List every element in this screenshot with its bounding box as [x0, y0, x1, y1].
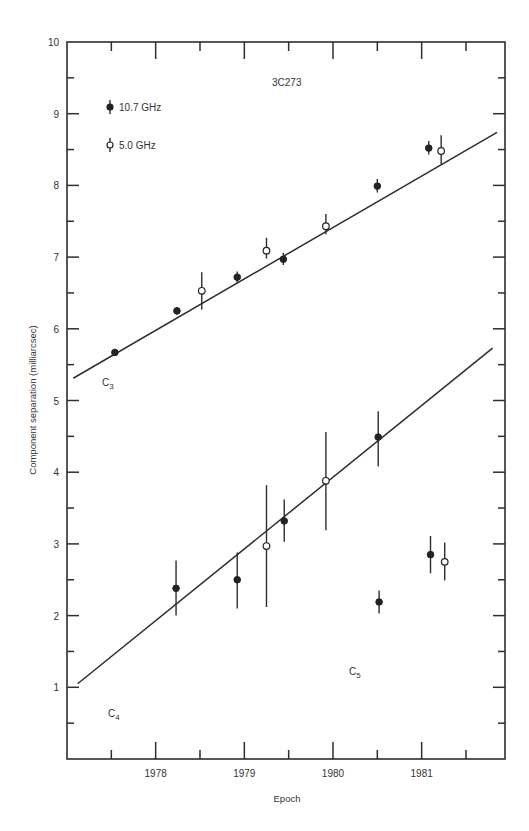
data-point-open: [323, 223, 330, 230]
data-point-filled: [376, 599, 383, 606]
data-point-filled: [375, 434, 382, 441]
component-label-c3: C3: [102, 377, 114, 391]
x-tick-label: 1980: [322, 768, 345, 779]
data-point-filled: [425, 145, 432, 152]
data-point-open: [263, 247, 270, 254]
x-axis-title: Epoch: [274, 793, 301, 804]
chart-canvas: 12345678910 1978197919801981 10.7 GHz5.0…: [0, 0, 529, 831]
x-tick-label: 1978: [145, 768, 168, 779]
data-point-open: [438, 148, 445, 155]
fit-line: [78, 348, 493, 684]
legend-label: 5.0 GHz: [119, 140, 156, 151]
data-point-filled: [173, 585, 180, 592]
source-title: 3C273: [272, 77, 302, 88]
legend: 10.7 GHz5.0 GHz: [107, 100, 161, 152]
y-axis-title: Component separation (milliarcsec): [27, 325, 38, 474]
y-tick-label: 8: [53, 180, 59, 191]
y-tick-label: 9: [53, 109, 59, 120]
data-point-filled: [234, 576, 241, 583]
data-point-open: [263, 543, 270, 550]
component-label-c5: C5: [349, 666, 361, 680]
data-point-filled: [281, 518, 288, 525]
data-point-filled: [427, 551, 434, 558]
x-axis-ticks: 1978197919801981: [111, 42, 466, 779]
data-point-filled: [174, 308, 181, 315]
x-tick-label: 1979: [233, 768, 256, 779]
data-point-filled: [112, 349, 119, 356]
fit-lines: [73, 132, 497, 683]
y-tick-label: 4: [53, 467, 59, 478]
data-point-filled: [374, 183, 381, 190]
y-tick-label: 7: [53, 252, 59, 263]
data-point-open: [198, 287, 205, 294]
y-tick-label: 6: [53, 324, 59, 335]
y-tick-label: 3: [53, 539, 59, 550]
data-point-open: [441, 559, 448, 566]
y-tick-label: 1: [53, 682, 59, 693]
data-point-filled: [280, 256, 287, 263]
fit-line: [73, 132, 497, 378]
y-tick-label: 10: [48, 37, 60, 48]
legend-filled-circle-icon: [107, 104, 113, 110]
annotations: C3C4C53C273: [102, 77, 361, 722]
y-tick-label: 5: [53, 396, 59, 407]
data-point-open: [323, 478, 330, 485]
y-tick-label: 2: [53, 611, 59, 622]
x-tick-label: 1981: [411, 768, 434, 779]
data-point-filled: [234, 274, 241, 281]
component-label-c4: C4: [108, 708, 120, 722]
data-points: [112, 135, 448, 615]
legend-label: 10.7 GHz: [119, 102, 161, 113]
legend-open-circle-icon: [107, 142, 113, 148]
y-axis-ticks: 12345678910: [48, 37, 505, 723]
